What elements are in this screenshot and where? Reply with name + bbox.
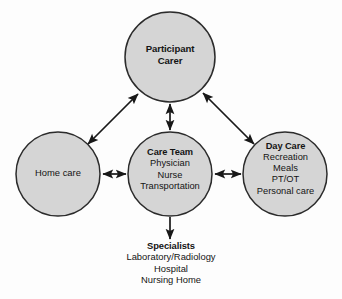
edge-participant-daycare bbox=[203, 93, 254, 144]
node-home-care[interactable] bbox=[16, 132, 100, 216]
node-day-care[interactable] bbox=[243, 132, 327, 216]
edge-home-participant bbox=[88, 94, 138, 144]
diagram-canvas bbox=[0, 0, 342, 299]
node-participant-carer[interactable] bbox=[125, 12, 215, 102]
node-care-team[interactable] bbox=[128, 132, 212, 216]
care-model-diagram: Participant Carer Home care Care Team Ph… bbox=[0, 0, 342, 299]
node-group bbox=[16, 12, 327, 216]
